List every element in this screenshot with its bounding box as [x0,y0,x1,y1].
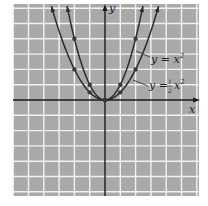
y-axis-label: y [108,2,116,15]
data-point [72,67,76,71]
data-point [118,83,122,87]
frac-den: 2 [167,87,172,94]
label-y-eq-x2: y = x2 [150,52,185,66]
label-y-eq-half-x2: y = [148,79,168,92]
data-point [72,37,76,41]
data-point [133,37,137,41]
data-point [88,90,92,94]
parabola-chart: y = x2 y = 1 2 x2 x y [0,0,208,206]
data-point [88,83,92,87]
frac-num: 1 [168,78,172,85]
data-point [103,98,107,102]
data-point [118,90,122,94]
x-axis-label: x [189,103,196,116]
data-point [133,67,137,71]
